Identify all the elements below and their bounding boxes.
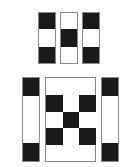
top-cell-white [83,29,99,46]
center-grid-cell-black [46,128,63,145]
right-bar-bottom [102,143,118,161]
center-grid-cell-black [79,95,96,112]
top-cell-black [39,47,55,63]
center-grid-cell-white [63,128,80,145]
top-cell-black [83,13,99,29]
center-grid-cell-white [79,112,96,129]
top-cell-black [83,47,99,63]
center-grid-cell-white [46,112,63,129]
top-cell-white [39,29,55,46]
top-cell-black [39,13,55,29]
left-bar-top [23,78,39,96]
left-bar-bottom [23,143,39,161]
center-grid-cell-black [46,95,63,112]
center-grid-cell-black [63,112,80,129]
center-grid-cell-black [79,128,96,145]
top-cell-black [61,29,77,46]
right-bar-top [102,78,118,96]
center-grid-cell-white [63,95,80,112]
top-cell-white [61,47,77,63]
top-cell-white [61,13,77,29]
